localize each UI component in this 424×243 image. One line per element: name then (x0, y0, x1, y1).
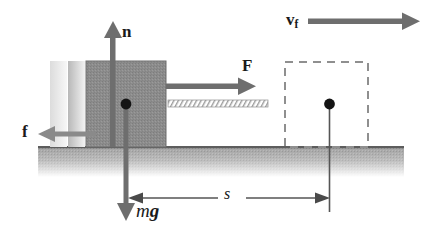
final-velocity-arrow (308, 13, 420, 31)
center-of-mass-initial (121, 99, 132, 110)
diagram-canvas (0, 0, 424, 243)
applied-force-arrow (166, 78, 256, 96)
final-velocity-label: vf (286, 11, 298, 30)
normal-force-label: n (122, 23, 131, 40)
weight-gravity-symbol: g (150, 200, 160, 221)
displacement-label: s (224, 186, 230, 202)
hatched-force-line (168, 100, 268, 107)
weight-mass-symbol: m (136, 200, 150, 221)
physics-free-body-diagram: n F f vf mg s (0, 0, 424, 243)
ground-surface (38, 146, 404, 177)
velocity-subscript: f (295, 18, 299, 31)
friction-force-label: f (22, 123, 28, 140)
applied-force-label: F (242, 57, 252, 74)
velocity-symbol: v (286, 10, 295, 29)
weight-label: mg (136, 201, 159, 220)
